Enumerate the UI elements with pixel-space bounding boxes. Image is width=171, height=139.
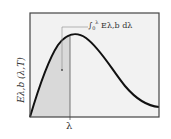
integral-upper-limit: λ bbox=[95, 19, 98, 25]
y-axis-label: Eλ,b (λ,T) bbox=[16, 55, 26, 105]
integral-lower-limit: 0 bbox=[92, 25, 95, 31]
integrand: Eλ,b dλ bbox=[101, 21, 132, 30]
x-marker-label: λ bbox=[66, 120, 72, 131]
integral-annotation: ∫0λ Eλ,b dλ bbox=[88, 19, 132, 31]
annotation-dot bbox=[61, 69, 63, 71]
